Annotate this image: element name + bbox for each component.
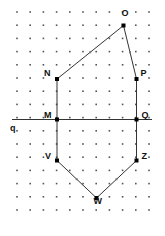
grid-dot [109,51,111,53]
grid-dot [56,170,58,172]
grid-dot [109,156,111,158]
geometry-figure: ONPMQVZW q [0,0,165,236]
grid-dot [82,11,84,13]
grid-dot [122,130,124,132]
grid-dot [122,209,124,211]
grid-dot [135,64,137,66]
grid-dot [43,11,45,13]
grid-dot [148,51,150,53]
grid-dot [69,156,71,158]
grid-dot [16,170,18,172]
grid-dot [43,130,45,132]
grid-dot [109,104,111,106]
grid-dot [95,209,97,211]
grid-dot [29,183,31,185]
grid-dot [109,77,111,79]
axis-label-q: q [10,124,16,133]
grid-dot [16,38,18,40]
grid-dot [69,64,71,66]
grid-dot [56,24,58,26]
grid-dot [148,104,150,106]
grid-dot [109,64,111,66]
grid-dot [82,130,84,132]
grid-dot [95,64,97,66]
grid-dot [122,170,124,172]
grid-dot [148,38,150,40]
vertex-point-o [122,24,126,28]
grid-dot [95,117,97,119]
grid-dot [95,130,97,132]
grid-dot [29,77,31,79]
grid-dot [122,77,124,79]
grid-dot [16,183,18,185]
grid-dot [122,104,124,106]
grid-dot [122,117,124,119]
vertex-label-q: Q [142,111,149,120]
grid-dot [43,170,45,172]
figure-canvas [0,0,165,236]
grid-dot [122,156,124,158]
grid-dot [95,38,97,40]
grid-dot [148,209,150,211]
grid-dot [148,64,150,66]
grid-dot [69,143,71,145]
grid-dot [29,24,31,26]
vertex-label-n: N [44,69,51,78]
grid-dot [56,196,58,198]
grid-dot [109,209,111,211]
grid-dot [56,209,58,211]
grid-dot [16,11,18,13]
edge-midpoint-marks [76,51,131,180]
grid-dot [95,77,97,79]
grid-dot [43,183,45,185]
grid-dot [16,64,18,66]
grid-dot [109,196,111,198]
vertex-point-q [135,118,139,122]
grid-dot [16,24,18,26]
grid-dot [29,117,31,119]
grid-dot [43,51,45,53]
grid-dot [43,156,45,158]
grid-dot [148,90,150,92]
grid-dot [82,196,84,198]
grid-dot [43,90,45,92]
grid-dot [122,143,124,145]
grid-dot [122,196,124,198]
grid-dot [56,11,58,13]
grid-dot [148,156,150,158]
edge-midpoint-mark [116,178,118,180]
grid-dot [95,156,97,158]
vertex-points [55,24,139,201]
grid-dot [56,64,58,66]
grid-dot [82,77,84,79]
edge-midpoint-mark [89,51,91,53]
grid-dot [95,143,97,145]
grid-dot [16,130,18,132]
grid-dot [69,196,71,198]
grid-dot [82,90,84,92]
grid-dot [148,143,150,145]
grid-dot [148,24,150,26]
grid-dot [82,51,84,53]
grid-dot [135,209,137,211]
grid-dot [16,143,18,145]
grid-dot [109,24,111,26]
grid-dot [122,64,124,66]
grid-dot [135,196,137,198]
edge-midpoint-mark [76,178,78,180]
grid-dot [69,183,71,185]
vertex-point-p [135,77,139,81]
vertex-label-o: O [122,9,129,18]
grid-dot [122,90,124,92]
grid-dot [43,104,45,106]
grid-dot [43,38,45,40]
grid-dot [29,156,31,158]
grid-dot [82,24,84,26]
grid-dot [109,90,111,92]
grid-dot [43,64,45,66]
grid-dot [122,183,124,185]
grid-dot [109,11,111,13]
grid-dot [29,51,31,53]
grid-dot [148,130,150,132]
vertex-point-n [55,77,59,81]
